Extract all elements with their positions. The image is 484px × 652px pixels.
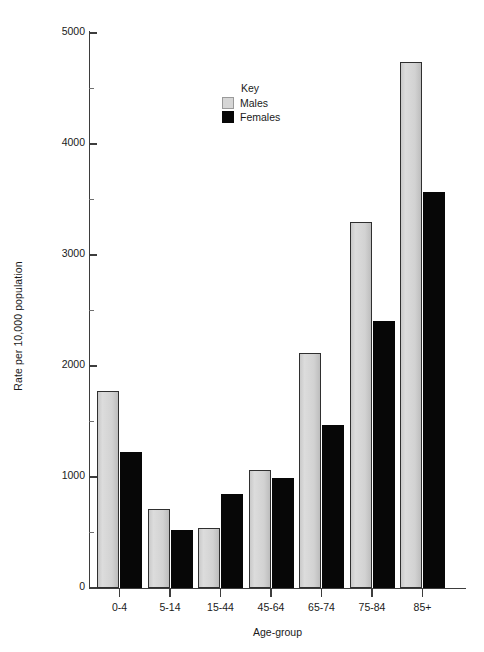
legend-swatch-females: [222, 111, 234, 123]
x-tick-label: 45-64: [258, 601, 285, 613]
x-tick-mark: [220, 588, 221, 597]
bar-males-45-64: [249, 470, 271, 588]
bar-chart: Rate per 10,000 population 0100020003000…: [0, 0, 484, 652]
bar-males-75-84: [350, 222, 372, 588]
legend-entries: MalesFemales: [222, 97, 280, 123]
legend-swatch-males: [222, 97, 234, 109]
x-tick-mark: [169, 588, 170, 597]
legend-label: Males: [240, 97, 268, 109]
bar-group: [350, 33, 395, 588]
x-tick-label: 15-44: [207, 601, 234, 613]
legend-entry-females: Females: [222, 111, 280, 123]
x-tick-mark: [119, 588, 120, 597]
y-tick-label: 0: [79, 580, 85, 592]
y-tick-label: 4000: [62, 136, 85, 148]
bar-males-15-44: [198, 528, 220, 588]
bar-females-5-14: [171, 530, 193, 588]
legend: Key MalesFemales: [222, 82, 280, 125]
x-tick-label: 65-74: [308, 601, 335, 613]
y-tick-label: 3000: [62, 247, 85, 259]
x-tick-mark: [270, 588, 271, 597]
y-tick-label: 2000: [62, 358, 85, 370]
x-tick-label: 75-84: [359, 601, 386, 613]
bar-group: [148, 33, 193, 588]
bar-group: [97, 33, 142, 588]
bar-group: [400, 33, 445, 588]
legend-label: Females: [240, 111, 280, 123]
bar-females-85+: [423, 192, 445, 588]
y-tick-label: 1000: [62, 469, 85, 481]
x-tick-label: 0-4: [112, 601, 127, 613]
bar-females-0-4: [120, 452, 142, 588]
x-tick-mark: [321, 588, 322, 597]
bar-females-75-84: [373, 321, 395, 589]
x-axis-title: Age-group: [89, 626, 466, 638]
bar-males-5-14: [148, 509, 170, 588]
legend-title: Key: [241, 82, 280, 94]
x-tick-label: 85+: [414, 601, 432, 613]
y-tick-label: 5000: [62, 25, 85, 37]
bar-males-0-4: [97, 391, 119, 588]
x-tick-mark: [371, 588, 372, 597]
bar-females-65-74: [322, 425, 344, 588]
x-tick-mark: [422, 588, 423, 597]
bar-females-15-44: [221, 494, 243, 588]
bar-males-65-74: [299, 353, 321, 588]
bar-group: [299, 33, 344, 588]
legend-entry-males: Males: [222, 97, 280, 109]
y-axis-title: Rate per 10,000 population: [0, 0, 36, 652]
bar-males-85+: [400, 62, 422, 588]
bar-females-45-64: [272, 478, 294, 588]
x-tick-label: 5-14: [159, 601, 180, 613]
